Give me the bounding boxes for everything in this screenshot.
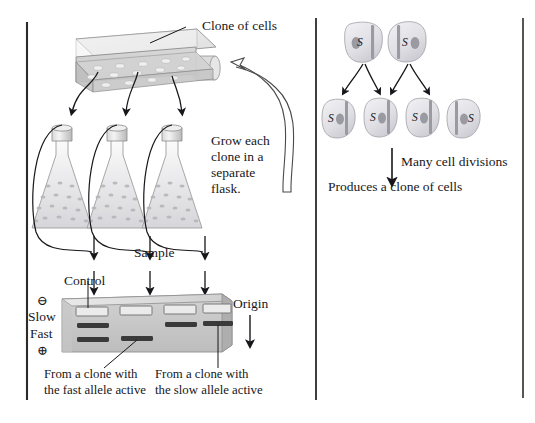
allele-label-r2-2: S <box>370 111 376 123</box>
grow-instruction-line-3: separate <box>211 165 255 181</box>
caption-fast-line-1: From a clone with <box>44 367 137 382</box>
erlenmeyer-flask-1 <box>32 125 92 228</box>
allele-label-r2-4: S <box>468 112 474 124</box>
chromosome-bar-r1-2 <box>397 25 400 59</box>
grow-instruction-line-1: Grow each <box>211 133 270 149</box>
fast-label: Fast <box>30 326 53 342</box>
allele-label-r2-1: S <box>328 112 334 124</box>
origin-label: Origin <box>233 296 268 312</box>
cathode-icon: ⊖ <box>37 294 48 307</box>
clone-of-cells-label: Clone of cells <box>202 18 277 34</box>
cell-r2-2 <box>364 98 397 137</box>
sample-label: Sample <box>134 245 175 261</box>
erlenmeyer-flask-2 <box>87 125 147 228</box>
cell-r2-1 <box>322 99 355 138</box>
chromosome-bar-r1-1 <box>371 25 374 59</box>
allele-label-r1-2: S <box>402 36 408 48</box>
grow-instruction-line-2: clone in a <box>211 149 263 165</box>
nucleus-r1-2 <box>411 37 420 49</box>
cell-row-2 <box>322 98 480 138</box>
anode-icon: ⊕ <box>37 344 48 357</box>
many-cell-divisions-label: Many cell divisions <box>401 154 508 170</box>
allele-label-r2-3: S <box>412 111 418 123</box>
cell-r2-3 <box>406 98 439 137</box>
cell-r2-4 <box>447 99 480 138</box>
erlenmeyer-flask-3 <box>142 125 202 228</box>
grow-instruction-line-4: flask. <box>211 181 241 197</box>
clone-origin-arrowhead <box>231 58 246 70</box>
division-arrow-4 <box>410 64 428 92</box>
caption-slow-line-2: the slow allele active <box>155 383 263 398</box>
produces-clone-label: Produces a clone of cells <box>328 179 462 195</box>
band-lane1-fast <box>77 337 109 342</box>
control-label: Control <box>64 273 105 289</box>
slow-label: Slow <box>28 309 56 325</box>
division-arrows <box>344 64 428 92</box>
division-arrow-1 <box>344 64 363 92</box>
culture-flask <box>76 29 220 92</box>
band-lane3-slow <box>165 322 197 327</box>
cell-r1-1 <box>345 22 383 62</box>
figure-root: Clone of cells Grow each clone in a sepa… <box>0 0 535 423</box>
allele-label-r1-1: S <box>357 36 363 48</box>
diagram-canvas <box>0 0 535 423</box>
caption-fast-line-2: the fast allele active <box>44 383 146 398</box>
caption-slow-line-1: From a clone with <box>155 367 248 382</box>
division-arrow-3 <box>392 64 408 92</box>
division-arrow-2 <box>365 64 379 92</box>
band-lane1-slow <box>77 323 109 328</box>
